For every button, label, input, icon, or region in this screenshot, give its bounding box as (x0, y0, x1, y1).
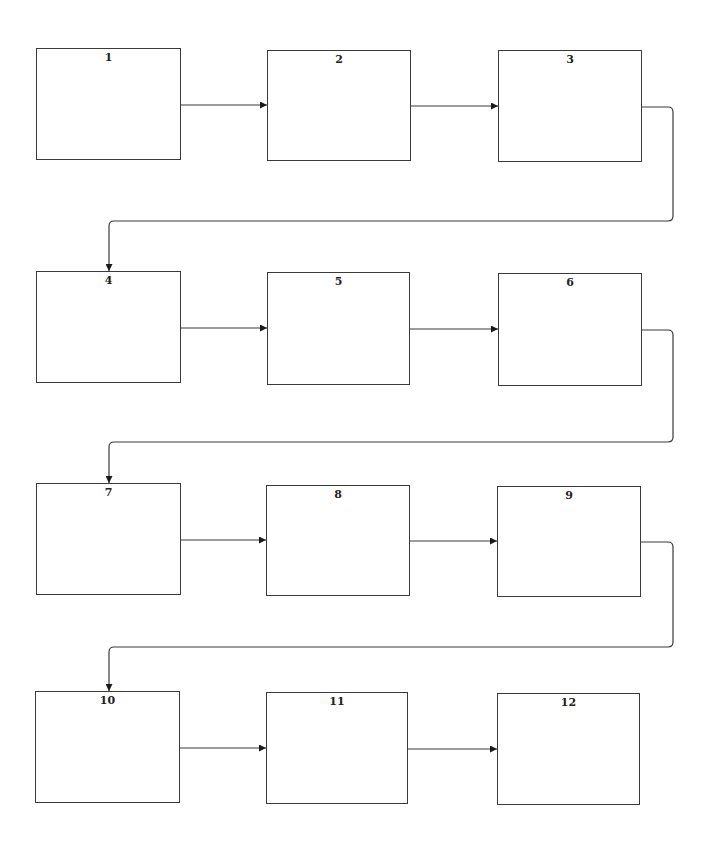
box-number-label: 4 (37, 275, 180, 287)
process-box-2: 2 (267, 50, 411, 161)
process-box-11: 11 (266, 692, 408, 804)
process-box-10: 10 (35, 691, 180, 803)
box-number-label: 5 (268, 276, 409, 288)
process-box-6: 6 (498, 273, 642, 386)
process-box-5: 5 (267, 272, 410, 385)
box-number-label: 12 (498, 697, 639, 709)
box-number-label: 2 (268, 54, 410, 66)
process-box-9: 9 (497, 486, 641, 597)
box-number-label: 6 (499, 277, 641, 289)
process-box-8: 8 (266, 485, 410, 596)
box-number-label: 1 (37, 52, 180, 64)
process-box-1: 1 (36, 48, 181, 160)
box-number-label: 7 (37, 487, 180, 499)
process-box-12: 12 (497, 693, 640, 805)
box-number-label: 11 (267, 696, 407, 708)
process-box-7: 7 (36, 483, 181, 595)
box-number-label: 8 (267, 489, 409, 501)
process-box-4: 4 (36, 271, 181, 383)
box-number-label: 10 (36, 695, 179, 707)
box-number-label: 3 (499, 54, 641, 66)
flowchart-canvas: 123456789101112 (0, 0, 706, 845)
edges (109, 105, 673, 749)
box-number-label: 9 (498, 490, 640, 502)
process-box-3: 3 (498, 50, 642, 162)
